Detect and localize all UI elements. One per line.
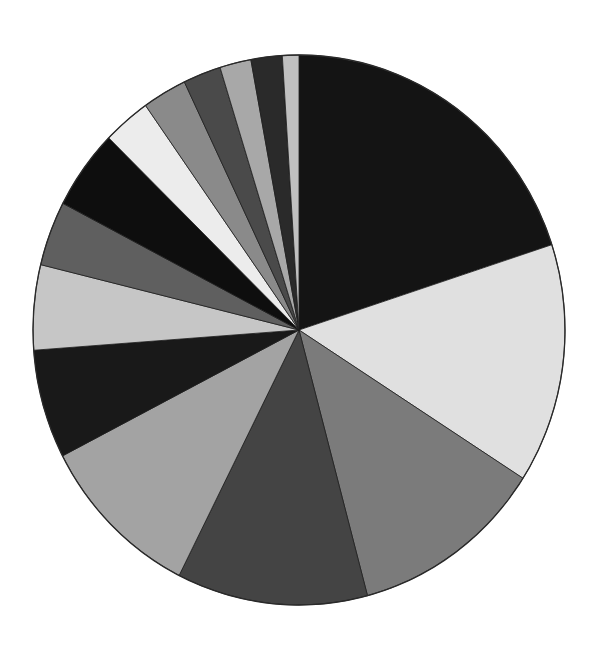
pie-chart [0, 0, 603, 652]
pie-slices [33, 55, 565, 605]
